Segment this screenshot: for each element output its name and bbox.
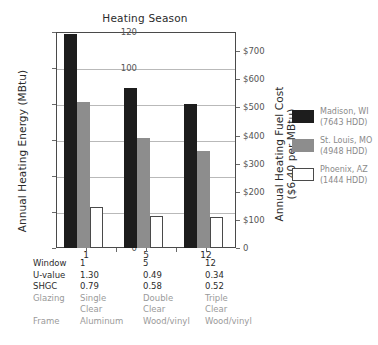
- table-row-label: SHGC: [33, 281, 57, 291]
- legend-city-name: Phoenix, AZ: [320, 165, 368, 174]
- y-axis-right-tick-label: $500: [243, 102, 277, 112]
- heating-season-chart-figure: Heating Season Annual Heating Energy (MB…: [0, 0, 378, 345]
- bar-madison-window-12: [184, 104, 197, 248]
- chart-legend: Madison, WI(7643 HDD)St. Louis, MO(4948 …: [292, 108, 378, 195]
- table-cell: 0.58: [143, 281, 162, 291]
- legend-item-phoenix: Phoenix, AZ(1444 HDD): [292, 166, 378, 195]
- bar-madison-window-5: [124, 88, 137, 248]
- legend-item-stlouis: St. Louis, MO(4948 HDD): [292, 137, 378, 166]
- table-cell: Aluminum: [80, 316, 123, 326]
- table-row: Window1512: [33, 258, 243, 270]
- legend-swatch-stlouis: [292, 139, 314, 152]
- table-row-label: Frame: [33, 316, 59, 326]
- table-cell: Single: [80, 293, 106, 303]
- x-axis-boundary-tickmark: [116, 248, 117, 252]
- y-axis-left-tickmark: [52, 176, 56, 177]
- table-cell: Double: [143, 293, 173, 303]
- y-axis-right-tickmark: [236, 164, 240, 165]
- table-cell: Wood/vinyl: [143, 316, 190, 326]
- y-axis-left-tickmark: [52, 248, 56, 249]
- y-axis-left-title: Annual Heating Energy (MBtu): [16, 41, 28, 261]
- table-cell: Clear: [143, 304, 165, 314]
- legend-label-stlouis: St. Louis, MO(4948 HDD): [320, 136, 372, 157]
- table-cell: Clear: [80, 304, 102, 314]
- table-row-label: Window: [33, 258, 67, 268]
- y-axis-left-tickmark: [52, 104, 56, 105]
- legend-hdd-value: (7643 HDD): [320, 118, 367, 127]
- legend-item-madison: Madison, WI(7643 HDD): [292, 108, 378, 137]
- table-row: FrameAluminumWood/vinylWood/vinyl: [33, 316, 243, 328]
- table-cell: Triple: [205, 293, 228, 303]
- y-axis-right-tick-label: $300: [243, 159, 277, 169]
- y-axis-right-tickmark: [236, 220, 240, 221]
- x-axis-tickmark: [146, 248, 147, 252]
- bar-stlouis-window-1: [77, 102, 90, 248]
- x-axis-boundary-tickmark: [176, 248, 177, 252]
- legend-swatch-madison: [292, 110, 314, 123]
- y-axis-right-tick-label: $100: [243, 215, 277, 225]
- y-axis-left-tickmark: [52, 212, 56, 213]
- table-row: ClearClearClear: [33, 304, 243, 316]
- x-axis-tickmark: [86, 248, 87, 252]
- legend-swatch-phoenix: [292, 168, 314, 181]
- y-axis-left-tickmark: [52, 32, 56, 33]
- table-cell: 0.49: [143, 270, 162, 280]
- legend-label-phoenix: Phoenix, AZ(1444 HDD): [320, 165, 368, 186]
- table-cell: 0.79: [80, 281, 99, 291]
- bar-madison-window-1: [64, 34, 77, 248]
- bar-stlouis-window-12: [197, 151, 210, 248]
- y-axis-right-tickmark: [236, 192, 240, 193]
- table-cell: 0.52: [205, 281, 224, 291]
- table-cell: 5: [143, 258, 148, 268]
- table-row-label: Glazing: [33, 293, 65, 303]
- legend-label-madison: Madison, WI(7643 HDD): [320, 107, 369, 128]
- legend-hdd-value: (4948 HDD): [320, 147, 367, 156]
- legend-city-name: St. Louis, MO: [320, 136, 372, 145]
- y-axis-right-tickmark: [236, 79, 240, 80]
- table-cell: 12: [205, 258, 216, 268]
- bar-stlouis-window-5: [137, 138, 150, 248]
- table-cell: 0.34: [205, 270, 224, 280]
- table-cell: 1.30: [80, 270, 99, 280]
- x-axis-tickmark: [206, 248, 207, 252]
- bar-phoenix-window-12: [210, 217, 223, 248]
- y-axis-left-tickmark: [52, 68, 56, 69]
- y-axis-right-tickmark: [236, 248, 240, 249]
- table-row: U-value1.300.490.34: [33, 270, 243, 282]
- y-axis-right-tickmark: [236, 136, 240, 137]
- bar-phoenix-window-1: [90, 207, 103, 248]
- bar-phoenix-window-5: [150, 216, 163, 248]
- y-axis-right-tickmark: [236, 107, 240, 108]
- y-axis-left-tickmark: [52, 140, 56, 141]
- y-axis-right-tickmark: [236, 51, 240, 52]
- legend-hdd-value: (1444 HDD): [320, 176, 367, 185]
- y-axis-right-tick-label: $700: [243, 46, 277, 56]
- table-cell: Wood/vinyl: [205, 316, 252, 326]
- y-axis-right-tick-label: $200: [243, 187, 277, 197]
- gridline: [57, 69, 235, 70]
- window-properties-table: Window1512U-value1.300.490.34SHGC0.790.5…: [33, 258, 243, 327]
- table-cell: 1: [80, 258, 85, 268]
- y-axis-right-tick-label: 0: [243, 243, 277, 253]
- y-axis-right-tick-label: $400: [243, 131, 277, 141]
- y-axis-right-tick-label: $600: [243, 74, 277, 84]
- chart-title: Heating Season: [55, 12, 235, 24]
- y-axis-left-tick-label: 120: [107, 27, 137, 37]
- table-row-label: U-value: [33, 270, 65, 280]
- table-row: GlazingSingleDoubleTriple: [33, 293, 243, 305]
- legend-city-name: Madison, WI: [320, 107, 369, 116]
- y-axis-left-tick-label: 100: [107, 63, 137, 73]
- table-cell: Clear: [205, 304, 227, 314]
- table-row: SHGC0.790.580.52: [33, 281, 243, 293]
